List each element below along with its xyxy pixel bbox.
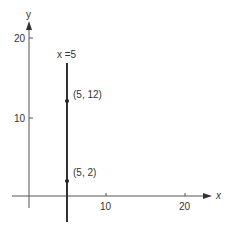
- x-tick-label-20: 20: [179, 201, 191, 212]
- x-axis-arrow-icon: [203, 193, 212, 199]
- point-5-2: [65, 179, 69, 183]
- line-label: x =5: [57, 49, 77, 60]
- point-label-5-12: (5, 12): [73, 89, 102, 100]
- y-axis-arrow-icon: [26, 21, 32, 30]
- x-tick-label-10: 10: [100, 201, 112, 212]
- chart: x y 10 20 10 20 x =5 (5, 12) (5, 2): [0, 0, 234, 234]
- y-axis-label: y: [26, 9, 31, 20]
- point-label-5-2: (5, 2): [73, 167, 96, 178]
- y-tick-label-10: 10: [14, 113, 26, 124]
- point-5-12: [65, 99, 69, 103]
- y-tick-label-20: 20: [14, 33, 26, 44]
- x-axis-label: x: [215, 190, 222, 201]
